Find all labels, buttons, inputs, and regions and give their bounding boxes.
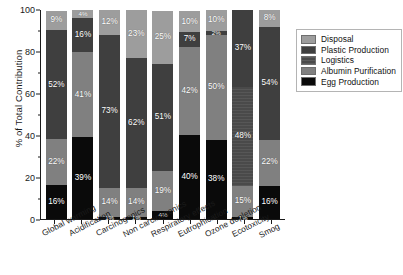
bar-non-carcinogenics[interactable]: 23%62%14%1% xyxy=(126,10,147,219)
bar-segment-value-label: 42% xyxy=(181,87,197,95)
bar-segment-value-label: 16% xyxy=(75,31,91,39)
bar-segment-plastic-production[interactable]: 51% xyxy=(152,64,173,171)
bar-segment-value-label: 10% xyxy=(208,16,224,24)
bar-segment-value-label: 16% xyxy=(261,198,277,206)
legend-swatch-icon xyxy=(301,77,316,86)
y-tick-label: 20 xyxy=(25,173,35,183)
legend-item-logistics[interactable]: Logistics xyxy=(301,55,396,66)
bar-segment-plastic-production[interactable]: 7% xyxy=(179,32,200,47)
y-tick-label: 100 xyxy=(20,5,35,15)
bar-segment-albumin-purification[interactable]: 50% xyxy=(206,35,227,140)
bar-acidification[interactable]: 4%16%41%39% xyxy=(72,10,93,219)
bar-segment-disposal[interactable]: 23% xyxy=(126,10,147,58)
bar-segment-value-label: 50% xyxy=(208,83,224,91)
bar-segment-disposal[interactable]: 10% xyxy=(179,11,200,32)
bar-segment-value-label: 22% xyxy=(261,158,277,166)
bar-segment-value-label: 22% xyxy=(48,158,64,166)
bar-segment-value-label: 51% xyxy=(155,113,171,121)
legend-item-label: Logistics xyxy=(321,55,354,65)
legend-item-albumin-purification[interactable]: Albumin Purification xyxy=(301,66,396,77)
bar-segment-value-label: 52% xyxy=(48,81,64,89)
bar-segment-value-label: 48% xyxy=(235,132,251,140)
stacked-bar-chart-figure: % of Total Contribution 100806040200 9%5… xyxy=(0,0,403,275)
bar-segment-value-label: 10% xyxy=(181,18,197,26)
bar-respiratory-effects[interactable]: 25%51%19%4% xyxy=(152,10,173,219)
y-tick-label: 60 xyxy=(25,89,35,99)
bar-segment-value-label: 9% xyxy=(50,16,62,24)
bar-segment-plastic-production[interactable]: 37% xyxy=(232,10,253,87)
bar-segment-albumin-purification[interactable]: 22% xyxy=(259,140,280,186)
bar-segment-disposal[interactable]: 25% xyxy=(152,11,173,64)
bar-segment-disposal[interactable]: 4% xyxy=(72,10,93,18)
chart-legend: DisposalPlastic ProductionLogisticsAlbum… xyxy=(296,29,402,92)
bar-segment-value-label: 12% xyxy=(101,18,117,26)
bar-segment-value-label: 14% xyxy=(101,198,117,206)
bar-segment-albumin-purification[interactable]: 41% xyxy=(72,52,93,138)
bar-segment-disposal[interactable]: 9% xyxy=(46,11,67,30)
bar-eutrophication[interactable]: 10%7%42%40% xyxy=(179,10,200,219)
legend-item-label: Albumin Purification xyxy=(321,66,396,76)
bar-segment-disposal[interactable]: 12% xyxy=(99,10,120,35)
legend-item-label: Plastic Production xyxy=(321,45,389,55)
y-tick-label: 0 xyxy=(30,215,35,225)
bar-segment-logistics[interactable]: 48% xyxy=(232,87,253,186)
bar-segment-plastic-production[interactable]: 73% xyxy=(99,35,120,188)
bar-segment-value-label: 54% xyxy=(261,79,277,87)
bar-segment-plastic-production[interactable]: 62% xyxy=(126,58,147,188)
y-tick-label: 40 xyxy=(25,131,35,141)
bar-segment-albumin-purification[interactable]: 22% xyxy=(46,139,67,185)
bar-ozone-depletion[interactable]: 10%2%50%38% xyxy=(206,10,227,219)
bar-segment-value-label: 19% xyxy=(155,187,171,195)
y-axis-ticks: 100806040200 xyxy=(0,10,40,220)
legend-swatch-icon xyxy=(301,67,316,76)
legend-item-disposal[interactable]: Disposal xyxy=(301,34,396,45)
bar-segment-value-label: 73% xyxy=(101,107,117,115)
legend-item-label: Disposal xyxy=(321,34,354,44)
bar-segment-albumin-purification[interactable]: 42% xyxy=(179,47,200,135)
bar-segment-value-label: 23% xyxy=(128,30,144,38)
bar-segment-value-label: 25% xyxy=(155,33,171,41)
plot-area: 9%52%22%16%4%16%41%39%12%73%14%1%23%62%1… xyxy=(40,10,285,220)
bar-segment-plastic-production[interactable]: 54% xyxy=(259,27,280,140)
bar-segment-value-label: 16% xyxy=(48,198,64,206)
bar-global-warming[interactable]: 9%52%22%16% xyxy=(46,10,67,219)
legend-item-label: Egg Production xyxy=(321,77,379,87)
bar-ecotoxicity[interactable]: 37%48%15%1% xyxy=(232,10,253,219)
bar-segment-plastic-production[interactable]: 52% xyxy=(46,30,67,139)
legend-swatch-icon xyxy=(301,35,316,44)
bar-segment-value-label: 15% xyxy=(235,197,251,205)
bar-segment-value-label: 38% xyxy=(208,175,224,183)
bar-segment-value-label: 7% xyxy=(184,35,196,43)
legend-item-plastic-production[interactable]: Plastic Production xyxy=(301,45,396,56)
bar-smog[interactable]: 8%54%22%16% xyxy=(259,10,280,219)
bar-segment-egg-production[interactable]: 16% xyxy=(46,185,67,219)
bar-segment-value-label: 39% xyxy=(75,174,91,182)
bar-segment-value-label: 37% xyxy=(235,44,251,52)
bar-segment-value-label: 41% xyxy=(75,91,91,99)
bar-segment-value-label: 8% xyxy=(264,14,276,22)
bar-group: 9%52%22%16%4%16%41%39%12%73%14%1%23%62%1… xyxy=(41,10,285,219)
bar-segment-value-label: 62% xyxy=(128,119,144,127)
bar-carcinogenics[interactable]: 12%73%14%1% xyxy=(99,10,120,219)
legend-swatch-icon xyxy=(301,56,316,65)
x-axis-labels: Global warmingAcidificationCarcinogenics… xyxy=(40,224,320,274)
bar-segment-plastic-production[interactable]: 16% xyxy=(72,18,93,51)
legend-swatch-icon xyxy=(301,46,316,55)
bar-segment-disposal[interactable]: 10% xyxy=(206,10,227,31)
bar-segment-disposal[interactable]: 8% xyxy=(259,10,280,27)
legend-item-egg-production[interactable]: Egg Production xyxy=(301,76,396,87)
bar-segment-value-label: 40% xyxy=(181,173,197,181)
y-tick-label: 80 xyxy=(25,47,35,57)
bar-segment-value-label: 4% xyxy=(79,11,88,17)
